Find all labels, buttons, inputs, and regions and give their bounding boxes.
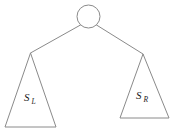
right-subtree-triangle <box>120 54 169 118</box>
edge-root-to-right-subtree <box>97 25 144 54</box>
tree-diagram: S L S R <box>0 0 177 136</box>
right-subtree-label-subscript: R <box>143 95 149 104</box>
left-subtree-triangle <box>5 53 56 127</box>
tree-diagram-canvas: S L S R <box>0 0 177 136</box>
right-subtree-label: S <box>136 89 142 101</box>
edge-root-to-left-subtree <box>31 25 81 53</box>
root-node-circle <box>77 5 100 28</box>
left-subtree-label-subscript: L <box>31 97 36 106</box>
left-subtree-label: S <box>24 91 30 103</box>
